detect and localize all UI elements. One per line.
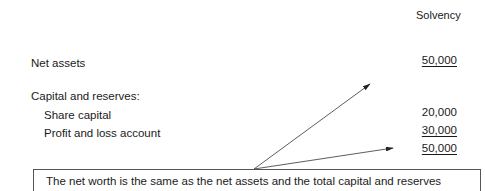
- arrow-to-total-capital: [254, 148, 393, 169]
- callout-arrows: [0, 0, 485, 191]
- arrow-to-net-assets: [254, 84, 370, 169]
- callout-text: The net worth is the same as the net ass…: [46, 175, 441, 187]
- callout-box: The net worth is the same as the net ass…: [33, 169, 481, 191]
